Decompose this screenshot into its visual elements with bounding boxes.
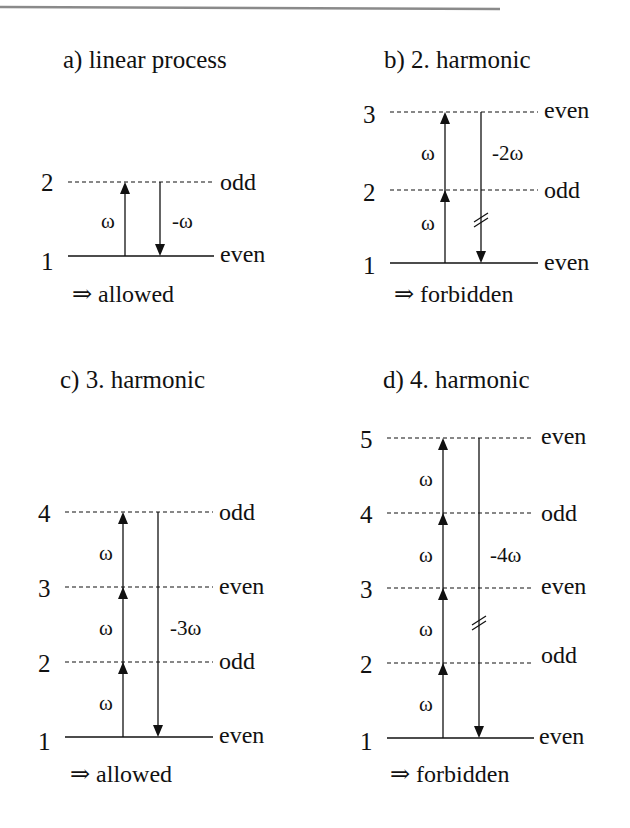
- photon-label: ω: [419, 692, 433, 716]
- level-number: 1: [363, 252, 376, 279]
- arrowhead-up-icon: [438, 588, 448, 600]
- selection-result: ⇒ forbidden: [394, 281, 513, 307]
- parity-label: even: [541, 423, 586, 449]
- level-number: 1: [41, 248, 54, 275]
- emission-label: -4ω: [490, 543, 521, 567]
- harmonic-selection-diagram: a) linear process 2 1 odd even ω -ω ⇒ al…: [0, 0, 630, 828]
- panel-a-linear-process: a) linear process 2 1 odd even ω -ω ⇒ al…: [41, 46, 265, 307]
- arrowhead-up-icon: [438, 513, 448, 525]
- emission-label: -3ω: [170, 616, 201, 640]
- level-number: 1: [38, 728, 51, 755]
- arrowhead-up-icon: [120, 182, 130, 194]
- photon-label: ω: [99, 616, 113, 640]
- arrowhead-down-icon: [155, 244, 165, 256]
- photon-label: ω: [419, 467, 433, 491]
- arrowhead-up-icon: [438, 663, 448, 675]
- photon-label: ω: [101, 209, 115, 233]
- photon-label: ω: [421, 141, 435, 165]
- level-number: 5: [360, 426, 373, 453]
- panel-title: d) 4. harmonic: [383, 366, 529, 394]
- level-number: 3: [363, 101, 376, 128]
- parity-label: odd: [219, 648, 255, 674]
- level-number: 4: [38, 500, 51, 527]
- parity-label: even: [220, 241, 265, 267]
- level-number: 3: [360, 576, 373, 603]
- arrowhead-up-icon: [118, 512, 128, 524]
- parity-label: even: [544, 249, 589, 275]
- arrowhead-up-icon: [118, 662, 128, 674]
- photon-label: ω: [99, 541, 113, 565]
- panel-d-4th-harmonic: d) 4. harmonic 5 4 3 2 1 even odd even o…: [360, 366, 586, 787]
- arrowhead-up-icon: [438, 438, 448, 450]
- parity-label: even: [219, 722, 264, 748]
- photon-label: ω: [421, 211, 435, 235]
- level-number: 2: [360, 651, 373, 678]
- level-number: 4: [360, 501, 373, 528]
- level-number: 2: [41, 169, 54, 196]
- photon-label: ω: [419, 543, 433, 567]
- parity-label: even: [541, 573, 586, 599]
- arrowhead-down-icon: [476, 251, 486, 263]
- level-number: 1: [360, 728, 373, 755]
- parity-label: odd: [219, 499, 255, 525]
- emission-label: -2ω: [492, 141, 523, 165]
- arrowhead-up-icon: [440, 112, 450, 124]
- arrowhead-up-icon: [440, 190, 450, 202]
- selection-result: ⇒ forbidden: [390, 761, 509, 787]
- selection-result: ⇒ allowed: [72, 281, 174, 307]
- panel-title: a) linear process: [63, 46, 227, 74]
- panel-b-2nd-harmonic: b) 2. harmonic 3 2 1 even odd even ω ω -…: [363, 46, 589, 307]
- parity-label: odd: [544, 177, 580, 203]
- parity-label: odd: [541, 500, 577, 526]
- arrowhead-down-icon: [153, 725, 163, 737]
- level-number: 2: [363, 179, 376, 206]
- emission-label: -ω: [172, 209, 193, 233]
- panel-c-3rd-harmonic: c) 3. harmonic 4 3 2 1 odd even odd even…: [38, 366, 264, 787]
- arrowhead-down-icon: [474, 726, 484, 738]
- parity-label: even: [539, 723, 584, 749]
- level-number: 2: [38, 650, 51, 677]
- photon-label: ω: [99, 691, 113, 715]
- panel-title: b) 2. harmonic: [384, 46, 530, 74]
- parity-label: odd: [541, 642, 577, 668]
- parity-label: even: [219, 573, 264, 599]
- parity-label: odd: [220, 169, 256, 195]
- photon-label: ω: [419, 617, 433, 641]
- selection-result: ⇒ allowed: [70, 761, 172, 787]
- top-rule: [0, 7, 500, 9]
- level-number: 3: [38, 575, 51, 602]
- panel-title: c) 3. harmonic: [60, 366, 205, 394]
- arrowhead-up-icon: [118, 587, 128, 599]
- parity-label: even: [544, 97, 589, 123]
